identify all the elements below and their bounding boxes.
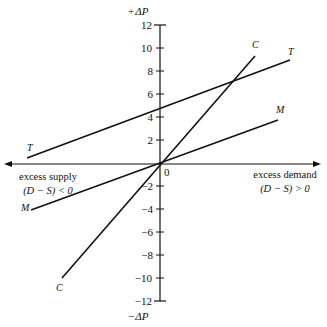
line-C-label-top: C xyxy=(252,39,259,50)
y-axis-top-title: +ΔP xyxy=(128,5,149,17)
line-T: T T xyxy=(27,46,295,158)
tick-label: 10 xyxy=(141,42,153,54)
y-tick-labels: 12 10 8 6 4 2 −2 −4 −6 −8 −10 −12 0 xyxy=(135,19,170,307)
excess-demand-condition: (D − S) > 0 xyxy=(260,183,310,195)
tick-label: −12 xyxy=(135,295,152,307)
tick-label: −6 xyxy=(141,226,153,238)
tick-label: −10 xyxy=(135,272,153,284)
right-arrow-icon xyxy=(313,161,321,167)
line-M-label-left: M xyxy=(20,202,30,213)
tick-label: 2 xyxy=(148,134,154,146)
line-T-label-left: T xyxy=(27,142,34,153)
line-M-label-right: M xyxy=(275,104,285,115)
price-adjustment-diagram: 12 10 8 6 4 2 −2 −4 −6 −8 −10 −12 0 +ΔP … xyxy=(0,0,327,327)
excess-demand-label: excess demand xyxy=(253,169,317,180)
y-axis-bottom-title: −ΔP xyxy=(128,310,149,322)
line-C-label-bottom: C xyxy=(56,282,63,293)
excess-supply-condition: (D − S) < 0 xyxy=(23,185,73,197)
origin-label: 0 xyxy=(164,166,170,178)
line-T-label-right: T xyxy=(288,46,295,57)
excess-supply-label: excess supply xyxy=(19,171,78,182)
left-arrow-icon xyxy=(4,161,12,167)
tick-label: 8 xyxy=(148,65,154,77)
tick-label: 12 xyxy=(141,19,152,31)
tick-label: −4 xyxy=(141,203,153,215)
tick-label: 6 xyxy=(148,88,154,100)
tick-label: −8 xyxy=(141,249,153,261)
